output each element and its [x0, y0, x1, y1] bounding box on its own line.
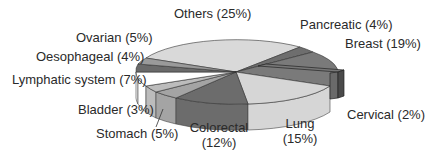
slice-cervical-front: [330, 72, 338, 99]
label-pancreatic: Pancreatic (4%): [300, 17, 392, 32]
label-cervical: Cervical (2%): [347, 107, 425, 122]
label-breast: Breast (19%): [345, 36, 421, 51]
label-lung-name: Lung: [280, 116, 320, 131]
label-ovarian: Ovarian (5%): [76, 30, 153, 45]
label-lung: Lung (15%): [280, 116, 320, 146]
slice-cervical-side: [338, 70, 344, 98]
label-lymphatic: Lymphatic system (7%): [12, 72, 147, 87]
label-stomach: Stomach (5%): [96, 126, 178, 141]
label-colorectal-value: (12%): [186, 135, 252, 150]
label-lung-value: (15%): [280, 131, 320, 146]
label-oesophageal: Oesophageal (4%): [36, 49, 144, 64]
label-bladder: Bladder (3%): [78, 102, 154, 117]
label-colorectal: Colorectal (12%): [186, 120, 252, 150]
label-colorectal-name: Colorectal: [186, 120, 252, 135]
label-others: Others (25%): [174, 6, 251, 21]
pie-top-faces: [136, 40, 338, 105]
